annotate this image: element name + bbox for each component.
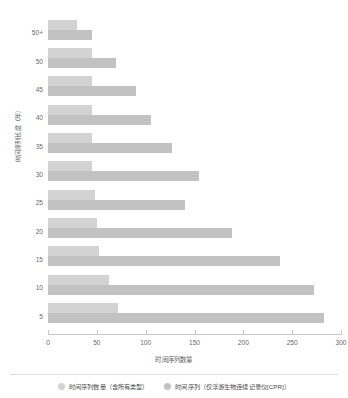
legend-item-cpr-only[interactable]: 时间序列（仅浮游生物连续记录仪[CPR]） [164, 382, 290, 391]
bar-all-types[interactable] [48, 246, 99, 256]
chart-row: 30 [48, 160, 341, 188]
legend-swatch-icon-cpr-only [164, 383, 171, 390]
y-tick-label: 5 [39, 312, 43, 319]
y-tick-label: 50 [36, 57, 43, 64]
x-axis-tick [146, 330, 147, 335]
bar-cpr-only[interactable] [48, 143, 172, 153]
y-axis-title: 时间序列长度（年） [13, 80, 22, 190]
x-tick-label: 150 [189, 339, 200, 346]
bar-cpr-only[interactable] [48, 86, 136, 96]
legend-label-all-types: 时间序列数量（含所有类型） [69, 382, 148, 391]
x-axis-tick [341, 330, 342, 335]
y-tick-label: 30 [36, 170, 43, 177]
x-axis-tick [195, 330, 196, 335]
x-tick-label: 50 [93, 339, 100, 346]
chart-row: 10 [48, 273, 341, 301]
chart-row: 25 [48, 188, 341, 216]
x-axis-tick [97, 330, 98, 335]
y-tick-label: 20 [36, 227, 43, 234]
y-tick-label: 50+ [32, 29, 43, 36]
bar-all-types[interactable] [48, 161, 92, 171]
bar-all-types[interactable] [48, 303, 118, 313]
x-tick-label: 100 [140, 339, 151, 346]
bar-all-types[interactable] [48, 76, 92, 86]
plot-area: 50+5045403530252015105 [48, 18, 341, 330]
legend-label-cpr-only: 时间序列（仅浮游生物连续记录仪[CPR]） [175, 382, 290, 391]
y-tick-label: 35 [36, 142, 43, 149]
chart-row: 20 [48, 217, 341, 245]
chart-row: 50 [48, 46, 341, 74]
y-tick-label: 10 [36, 284, 43, 291]
bar-all-types[interactable] [48, 218, 97, 228]
bar-all-types[interactable] [48, 133, 92, 143]
y-tick-label: 25 [36, 199, 43, 206]
bar-all-types[interactable] [48, 20, 77, 30]
x-tick-label: 200 [238, 339, 249, 346]
chart-row: 15 [48, 245, 341, 273]
chart-row: 35 [48, 131, 341, 159]
bar-cpr-only[interactable] [48, 256, 280, 266]
bar-all-types[interactable] [48, 105, 92, 115]
bar-all-types[interactable] [48, 275, 109, 285]
bar-cpr-only[interactable] [48, 171, 199, 181]
chart-row: 50+ [48, 18, 341, 46]
x-tick-label: 0 [46, 339, 50, 346]
x-axis-tick [48, 330, 49, 335]
bar-cpr-only[interactable] [48, 58, 116, 68]
x-axis-tick [292, 330, 293, 335]
bar-cpr-only[interactable] [48, 228, 232, 238]
legend-divider [10, 374, 338, 375]
legend-swatch-icon-all-types [58, 383, 65, 390]
x-axis-tick [243, 330, 244, 335]
bar-cpr-only[interactable] [48, 200, 185, 210]
bar-all-types[interactable] [48, 48, 92, 58]
x-tick-label: 250 [287, 339, 298, 346]
chart-row: 5 [48, 302, 341, 330]
bar-cpr-only[interactable] [48, 313, 324, 323]
chart-row: 45 [48, 75, 341, 103]
chart-legend: 时间序列数量（含所有类型） 时间序列（仅浮游生物连续记录仪[CPR]） [0, 382, 348, 391]
x-tick-label: 300 [335, 339, 346, 346]
y-tick-label: 15 [36, 256, 43, 263]
bar-cpr-only[interactable] [48, 115, 151, 125]
bar-all-types[interactable] [48, 190, 95, 200]
bar-cpr-only[interactable] [48, 30, 92, 40]
horizontal-bar-chart: 时间序列长度（年） 50+5045403530252015105 时间序列数量 … [0, 0, 348, 398]
chart-row: 40 [48, 103, 341, 131]
legend-item-all-types[interactable]: 时间序列数量（含所有类型） [58, 382, 148, 391]
bar-cpr-only[interactable] [48, 285, 314, 295]
y-tick-label: 40 [36, 114, 43, 121]
y-tick-label: 45 [36, 85, 43, 92]
x-axis-title: 时间序列数量 [0, 355, 348, 364]
